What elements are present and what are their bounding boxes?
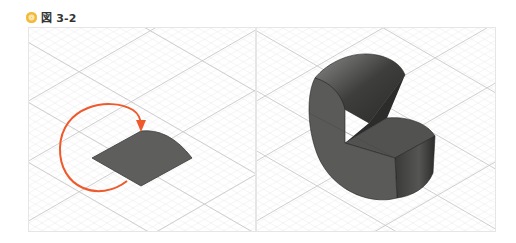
figure-caption: 図 3-2 [26, 9, 77, 25]
figure-label: 図 3-2 [41, 9, 77, 25]
figure-marker-icon [26, 12, 37, 23]
panel-profile [28, 27, 256, 232]
panel-solid [256, 27, 496, 232]
solid-illustration [257, 28, 495, 231]
profile-illustration [29, 28, 255, 231]
